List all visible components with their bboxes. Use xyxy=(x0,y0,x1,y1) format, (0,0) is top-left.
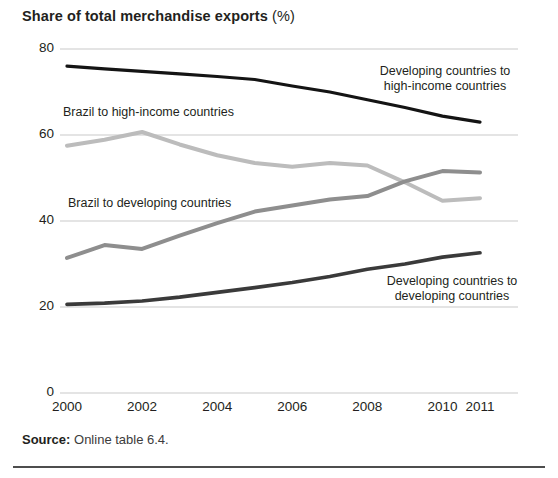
y-axis-tick-60: 60 xyxy=(20,126,54,141)
series-label-line: Brazil to high-income countries xyxy=(63,105,273,120)
series-label-line: Developing countries to xyxy=(362,274,542,289)
source-text: Online table 6.4. xyxy=(74,432,169,447)
series-line-2 xyxy=(67,171,480,258)
series-label-brazil-to-dev: Brazil to developing countries xyxy=(68,196,268,211)
series-label-dev-to-dev: Developing countries todeveloping countr… xyxy=(362,274,542,303)
y-axis-tick-20: 20 xyxy=(20,298,54,313)
x-axis-tick-2011: 2011 xyxy=(452,399,508,414)
y-axis-tick-80: 80 xyxy=(20,40,54,55)
x-axis-tick-2002: 2002 xyxy=(114,399,170,414)
series-label-line: Brazil to developing countries xyxy=(68,196,268,211)
y-axis-tick-40: 40 xyxy=(20,212,54,227)
figure-container: Share of total merchandise exports (%) 0… xyxy=(0,0,558,478)
x-axis-tick-2004: 2004 xyxy=(189,399,245,414)
series-label-line: developing countries xyxy=(362,289,542,304)
x-axis-tick-2008: 2008 xyxy=(339,399,395,414)
bottom-divider xyxy=(13,466,545,468)
y-axis-tick-0: 0 xyxy=(20,384,54,399)
x-axis-tick-2000: 2000 xyxy=(39,399,95,414)
series-label-line: high-income countries xyxy=(355,79,535,94)
series-label-line: Developing countries to xyxy=(355,64,535,79)
series-label-dev-to-high: Developing countries tohigh-income count… xyxy=(355,64,535,93)
source-label: Source: xyxy=(22,432,70,447)
source-note: Source: Online table 6.4. xyxy=(22,432,169,447)
series-label-brazil-to-high: Brazil to high-income countries xyxy=(63,105,273,120)
series-line-1 xyxy=(67,132,480,201)
x-axis-tick-2006: 2006 xyxy=(264,399,320,414)
chart-plot-area: 0204060802000200220042006200820102011 De… xyxy=(0,0,558,420)
